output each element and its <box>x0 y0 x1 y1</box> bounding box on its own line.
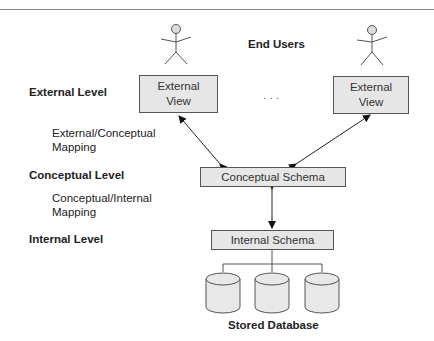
end-user-left-icon <box>161 25 191 65</box>
ellipsis: . . . <box>263 88 279 103</box>
external-view-right-line2: View <box>334 95 408 110</box>
internal-schema: Internal Schema <box>211 230 334 250</box>
conceptual-internal-mapping-label-line2: Mapping <box>52 205 96 220</box>
internal-level-label: Internal Level <box>29 232 103 247</box>
arrow-left-ext-to-conceptual <box>179 116 220 164</box>
database-cylinder-icon <box>255 273 289 313</box>
external-view-left: External View <box>139 75 218 113</box>
external-view-left-line2: View <box>140 94 217 109</box>
conceptual-internal-mapping-label-line1: Conceptual/Internal <box>52 191 152 206</box>
external-view-right-line1: External <box>334 80 408 95</box>
conceptual-schema-label: Conceptual Schema <box>201 170 345 185</box>
arrow-right-ext-to-conceptual <box>296 115 370 164</box>
end-user-right-icon <box>357 26 387 66</box>
end-users-label: End Users <box>248 37 305 52</box>
storage-connector <box>223 249 322 272</box>
external-view-left-line1: External <box>140 79 217 94</box>
database-cylinder-icon <box>305 273 339 313</box>
database-cylinder-icon <box>206 273 240 313</box>
stored-database-label: Stored Database <box>228 318 319 333</box>
conceptual-level-label: Conceptual Level <box>29 168 124 183</box>
external-level-label: External Level <box>29 85 107 100</box>
external-view-right: External View <box>333 76 409 114</box>
internal-schema-label: Internal Schema <box>212 233 333 248</box>
external-conceptual-mapping-label-line1: External/Conceptual <box>52 126 156 141</box>
conceptual-schema: Conceptual Schema <box>200 167 346 187</box>
external-conceptual-mapping-label-line2: Mapping <box>52 140 96 155</box>
